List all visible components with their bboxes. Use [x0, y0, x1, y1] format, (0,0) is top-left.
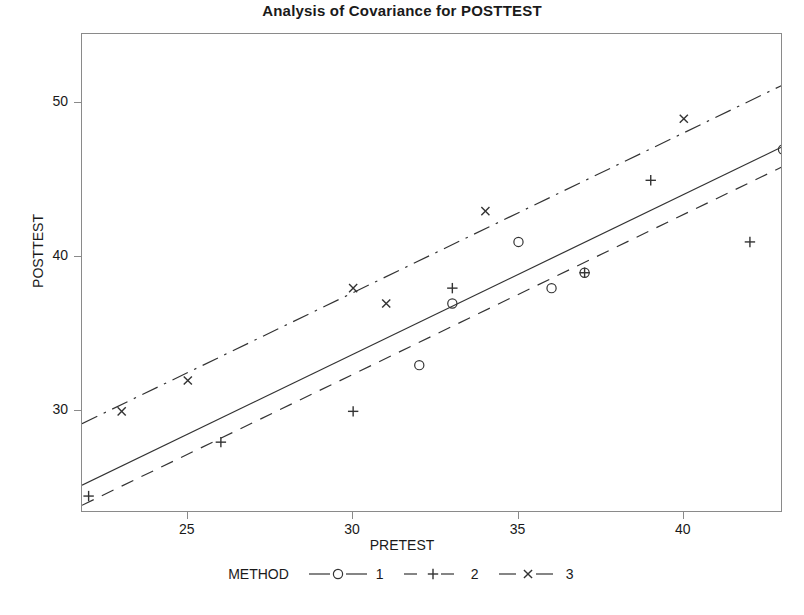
legend-label: 1: [376, 566, 386, 582]
fit-line-method-1: [82, 146, 782, 485]
legend-entry-method-1[interactable]: 1: [307, 566, 386, 582]
y-tick-label: 30: [28, 401, 68, 417]
legend-entry-method-3[interactable]: 3: [497, 566, 576, 582]
circle-marker: [547, 284, 556, 293]
y-tick-label: 50: [28, 93, 68, 109]
series-method-2: [83, 175, 755, 501]
circle-marker: [514, 237, 523, 246]
y-tick-mark: [74, 102, 81, 103]
legend-entry-method-2[interactable]: 2: [402, 566, 481, 582]
legend-items: 123: [307, 566, 576, 582]
y-tick-mark: [74, 410, 81, 411]
x-axis-label: PRETEST: [0, 537, 804, 553]
series-method-1: [415, 145, 782, 370]
x-tick-mark: [518, 512, 519, 519]
circle-marker: [333, 569, 342, 578]
x-tick-mark: [683, 512, 684, 519]
legend-sample-circle-marker: [307, 566, 369, 582]
legend-sample-cross-marker: [497, 566, 559, 582]
x-tick-label: 40: [663, 521, 703, 537]
page-title: Analysis of Covariance for POSTTEST: [0, 2, 804, 19]
legend-marker: [333, 569, 342, 578]
x-tick-mark: [187, 512, 188, 519]
legend: METHOD 123: [0, 566, 804, 582]
series-method-3: [118, 115, 688, 416]
legend-label: 3: [566, 566, 576, 582]
circle-marker: [415, 361, 424, 370]
legend-marker: [428, 569, 438, 579]
y-tick-label: 40: [28, 247, 68, 263]
legend-label: 2: [471, 566, 481, 582]
fit-line-method-3: [82, 85, 782, 424]
plot-canvas: [82, 34, 782, 512]
x-tick-mark: [352, 512, 353, 519]
legend-sample-plus-marker: [402, 566, 464, 582]
x-tick-label: 25: [167, 521, 207, 537]
chart-page: Analysis of Covariance for POSTTEST POST…: [0, 0, 804, 615]
y-tick-mark: [74, 256, 81, 257]
legend-marker: [524, 570, 532, 578]
legend-title: METHOD: [228, 566, 289, 582]
x-tick-label: 30: [332, 521, 372, 537]
fit-line-method-2: [82, 166, 782, 505]
plot-area: [81, 33, 782, 512]
circle-marker: [778, 145, 782, 154]
x-tick-label: 35: [498, 521, 538, 537]
